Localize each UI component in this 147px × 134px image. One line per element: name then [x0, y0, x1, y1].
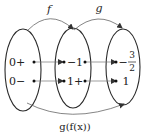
arrow-f [28, 19, 73, 30]
label-intermediate-item-2: 1+ [67, 75, 83, 88]
label-domain-item-1: 0+ [9, 56, 25, 69]
point-dot [63, 80, 66, 83]
label-codomain-item-1-numerator: 3 [129, 50, 135, 60]
point-dot [115, 61, 118, 64]
mapping-diagram: f g g(f(x)) 0+ 0− −1 1+ − 3 2 1 [0, 0, 147, 134]
label-codomain-item-2: 1 [123, 75, 130, 88]
point-dot [84, 80, 87, 83]
point-dot [84, 61, 87, 64]
label-codomain-item-1-sign: − [118, 56, 127, 69]
set-ellipse-domain [5, 29, 41, 111]
label-codomain-item-1-denominator: 2 [129, 63, 135, 73]
label-intermediate-item-1: −1 [67, 56, 83, 69]
arrow-g [74, 19, 122, 30]
arrow-composition [27, 103, 124, 114]
point-dot [33, 80, 36, 83]
point-dot [63, 61, 66, 64]
label-domain-item-2: 0− [9, 75, 25, 88]
label-composition: g(f(x)) [59, 121, 90, 132]
point-dot [33, 61, 36, 64]
label-f: f [46, 3, 53, 16]
label-g: g [95, 2, 102, 15]
point-dot [115, 80, 118, 83]
